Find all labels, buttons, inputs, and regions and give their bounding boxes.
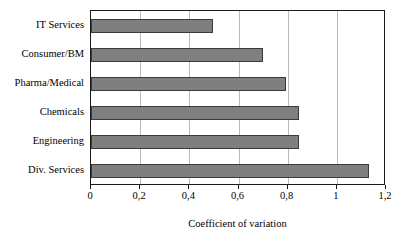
bar: [91, 164, 369, 178]
tick-label: 0,6: [218, 190, 258, 202]
bar: [91, 106, 299, 120]
tick-label: 0,8: [267, 190, 307, 202]
tick-mark: [385, 185, 386, 189]
tick-label: 0: [70, 190, 110, 202]
category-label: Consumer/BM: [0, 48, 84, 59]
tick-mark: [188, 185, 189, 189]
category-label: Chemicals: [0, 106, 84, 117]
tick-label: 1: [316, 190, 356, 202]
bar: [91, 135, 299, 149]
bar: [91, 48, 263, 62]
tick-mark: [139, 185, 140, 189]
tick-label: 0,2: [119, 190, 159, 202]
category-axis: IT ServicesConsumer/BMPharma/MedicalChem…: [0, 10, 88, 185]
bar: [91, 77, 286, 91]
bar-chart: IT ServicesConsumer/BMPharma/MedicalChem…: [0, 0, 407, 241]
category-label: IT Services: [0, 19, 84, 30]
value-axis: 00,20,40,60,811,2: [90, 185, 385, 207]
tick-label: 0,4: [168, 190, 208, 202]
tick-mark: [287, 185, 288, 189]
x-axis-title: Coefficient of variation: [90, 218, 385, 230]
plot-area: [90, 10, 385, 185]
bar: [91, 19, 213, 33]
category-label: Pharma/Medical: [0, 77, 84, 88]
category-label: Div. Services: [0, 164, 84, 175]
bars-layer: [91, 11, 384, 184]
tick-mark: [336, 185, 337, 189]
category-label: Engineering: [0, 135, 84, 146]
tick-mark: [238, 185, 239, 189]
tick-label: 1,2: [365, 190, 405, 202]
tick-mark: [90, 185, 91, 189]
